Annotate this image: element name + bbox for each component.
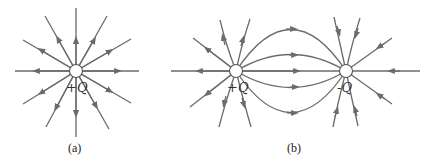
negative-charge-label: -Q	[337, 80, 352, 95]
panel-a-diagram: +Q (a)	[15, 8, 139, 155]
charge-label: +Q	[66, 80, 88, 95]
panel-b-diagram: +Q -Q (b)	[171, 17, 420, 155]
caption-b: (b)	[287, 141, 301, 155]
positive-charge-label: +Q	[227, 80, 249, 95]
dipole-connecting-lines	[236, 29, 346, 113]
positive-charge	[230, 65, 243, 78]
negative-charge	[340, 65, 353, 78]
field-lines-figure: +Q (a)	[0, 0, 432, 164]
positive-charge	[70, 65, 83, 78]
caption-a: (a)	[68, 141, 81, 155]
